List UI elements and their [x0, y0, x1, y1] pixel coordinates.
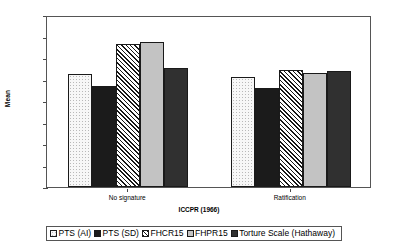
legend-item-label: PTS (AI) — [59, 228, 92, 239]
legend-item: FHPR15 — [187, 228, 228, 239]
legend-item-label: Torture Scale (Hathaway) — [239, 228, 335, 239]
legend-swatch-icon — [94, 230, 101, 237]
x-axis-category-label: No signature — [77, 194, 177, 201]
bar — [231, 77, 255, 188]
bar-series-group — [47, 17, 370, 187]
x-axis-category-label: Ratification — [240, 194, 340, 201]
legend-item: FHCR15 — [142, 228, 184, 239]
bar — [279, 70, 303, 187]
y-axis-tick-mark — [43, 145, 46, 146]
bar — [140, 42, 164, 187]
bar — [164, 68, 188, 187]
y-axis-tick-mark — [43, 16, 46, 17]
legend-swatch-icon — [187, 230, 194, 237]
y-axis-tick-mark — [43, 38, 46, 39]
chart-container: Mean 00.511.522.533.54 No signatureRatif… — [0, 0, 398, 250]
y-axis-tick-mark — [43, 81, 46, 82]
legend-item-label: FHPR15 — [195, 228, 228, 239]
y-axis-tick-mark — [43, 59, 46, 60]
legend-swatch-icon — [231, 230, 238, 237]
chart-legend: PTS (AI)PTS (SD)FHCR15FHPR15Torture Scal… — [46, 226, 342, 241]
legend-swatch-icon — [50, 230, 57, 237]
bar — [327, 71, 351, 187]
legend-item: PTS (AI) — [50, 228, 91, 239]
x-axis-tick-mark — [290, 189, 291, 192]
y-axis-tick-mark — [43, 188, 46, 189]
bar — [116, 44, 140, 187]
x-axis-tick-mark — [127, 189, 128, 192]
legend-item-label: PTS (SD) — [103, 228, 139, 239]
bar — [68, 74, 92, 187]
y-axis-tick-mark — [43, 102, 46, 103]
bar — [255, 88, 279, 187]
legend-swatch-icon — [142, 230, 149, 237]
legend-item: Torture Scale (Hathaway) — [231, 228, 335, 239]
y-axis-tick-mark — [43, 167, 46, 168]
legend-item-label: FHCR15 — [150, 228, 183, 239]
y-axis-title: Mean — [4, 79, 11, 119]
y-axis-tick-mark — [43, 124, 46, 125]
legend-item: PTS (SD) — [94, 228, 139, 239]
bar — [303, 73, 327, 187]
x-axis-title: ICCPR (1966) — [0, 206, 398, 213]
plot-area — [46, 16, 371, 188]
bar — [92, 86, 116, 187]
